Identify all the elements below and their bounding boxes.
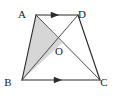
geometry-figure-svg: A D B C O — [0, 0, 121, 99]
vertex-label-o: O — [55, 45, 63, 57]
vertex-label-a: A — [18, 8, 26, 20]
geometry-figure-container: A D B C O — [0, 0, 121, 99]
vertex-label-b: B — [4, 76, 11, 88]
vertex-label-c: C — [100, 76, 107, 88]
vertex-label-d: D — [78, 8, 86, 20]
